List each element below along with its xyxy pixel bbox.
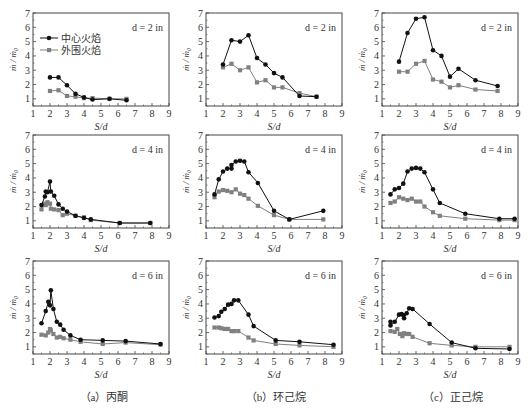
panel-a-row3: 1234567891234567S/dṁ / ṁ₀d = 6 in (8, 256, 172, 381)
y-tick-label: 7 (198, 130, 203, 141)
x-tick-label: 2 (48, 230, 53, 241)
x-tick-label: 1 (31, 356, 36, 367)
y-tick-label: 6 (374, 144, 379, 155)
x-tick-label: 9 (516, 108, 521, 119)
x-tick-label: 7 (306, 356, 311, 367)
marker-square (256, 204, 260, 208)
x-tick-label: 5 (99, 108, 104, 119)
panel-c-row1: 1234567891234567S/dṁ / ṁ₀d = 2 in (357, 8, 521, 133)
y-tick-label: 3 (25, 65, 30, 76)
y-tick-label: 2 (374, 79, 379, 90)
marker-circle (287, 217, 292, 222)
marker-square (212, 325, 216, 329)
marker-circle (246, 312, 251, 317)
marker-square (49, 328, 53, 332)
y-tick-label: 3 (198, 65, 203, 76)
marker-square (246, 335, 250, 339)
legend: 中心火焰外围火焰 (40, 32, 101, 56)
marker-circle (52, 194, 57, 199)
y-tick-label: 5 (374, 158, 379, 169)
x-tick-label: 8 (150, 108, 155, 119)
x-tick-label: 2 (221, 108, 226, 119)
x-tick-label: 2 (397, 356, 402, 367)
marker-circle (123, 339, 128, 344)
marker-square (422, 59, 426, 63)
x-tick-label: 8 (323, 230, 328, 241)
x-tick-label: 6 (289, 356, 294, 367)
x-tick-label: 8 (150, 230, 155, 241)
y-tick-label: 4 (374, 172, 379, 183)
marker-circle (397, 186, 402, 191)
marker-circle (272, 209, 277, 214)
marker-circle (273, 338, 278, 343)
x-tick-label: 1 (380, 356, 385, 367)
marker-circle (297, 340, 302, 345)
x-tick-label: 4 (255, 108, 260, 119)
marker-circle (439, 54, 444, 59)
x-tick-label: 3 (414, 230, 419, 241)
marker-square (388, 329, 392, 333)
series-outer-flame (221, 62, 319, 99)
y-tick-label: 6 (198, 22, 203, 33)
series-outer-flame (388, 327, 511, 349)
marker-square (414, 62, 418, 66)
marker-circle (409, 166, 414, 171)
legend-outer-label: 外围火焰 (61, 44, 101, 56)
x-tick-label: 4 (82, 230, 87, 241)
marker-square (229, 190, 233, 194)
y-tick-label: 2 (25, 327, 30, 338)
marker-circle (65, 209, 70, 214)
marker-circle (78, 337, 83, 342)
marker-circle (422, 170, 427, 175)
y-tick-label: 5 (198, 36, 203, 47)
x-tick-label: 1 (204, 108, 209, 119)
marker-square (48, 202, 52, 206)
marker-circle (463, 211, 468, 216)
y-tick-label: 4 (25, 298, 30, 309)
x-tick-label: 4 (255, 230, 260, 241)
y-axis-label: ṁ / ṁ₀ (181, 48, 191, 71)
marker-circle (256, 181, 261, 186)
x-tick-label: 9 (340, 108, 345, 119)
marker-circle (414, 16, 419, 21)
plots-svg: 1234567891234567S/dṁ / ṁ₀d = 2 in中心火焰外围火… (0, 0, 532, 385)
marker-circle (297, 94, 302, 99)
marker-square (393, 199, 397, 203)
marker-circle (238, 158, 243, 163)
marker-circle (495, 84, 500, 89)
marker-square (56, 208, 60, 212)
x-tick-label: 5 (272, 356, 277, 367)
marker-circle (49, 189, 54, 194)
marker-circle (65, 83, 70, 88)
marker-circle (402, 316, 407, 321)
marker-circle (448, 74, 453, 79)
y-tick-label: 5 (25, 158, 30, 169)
marker-square (405, 70, 409, 74)
marker-circle (48, 179, 53, 184)
x-axis-label: S/d (268, 121, 282, 132)
y-tick-label: 3 (25, 187, 30, 198)
marker-square (56, 88, 60, 92)
marker-circle (82, 216, 87, 221)
y-axis-label: ṁ / ṁ₀ (181, 296, 191, 319)
marker-square (272, 85, 276, 89)
marker-square (473, 87, 477, 91)
marker-circle (117, 221, 122, 226)
marker-circle (272, 71, 277, 76)
series-outer-flame (212, 187, 325, 221)
legend-outer-marker (47, 48, 51, 52)
x-tick-label: 3 (65, 230, 70, 241)
marker-circle (107, 97, 112, 102)
marker-circle (321, 209, 326, 214)
panel-a-row2: 1234567891234567S/dṁ / ṁ₀d = 4 in (8, 130, 172, 255)
marker-circle (418, 166, 423, 171)
marker-circle (89, 217, 94, 222)
x-tick-label: 7 (306, 230, 311, 241)
x-tick-label: 3 (65, 108, 70, 119)
marker-circle (392, 187, 397, 192)
panel-title: d = 2 in (132, 22, 163, 33)
y-tick-label: 7 (374, 256, 379, 267)
y-tick-label: 4 (25, 50, 30, 61)
marker-circle (51, 307, 56, 312)
y-tick-label: 1 (198, 341, 203, 352)
